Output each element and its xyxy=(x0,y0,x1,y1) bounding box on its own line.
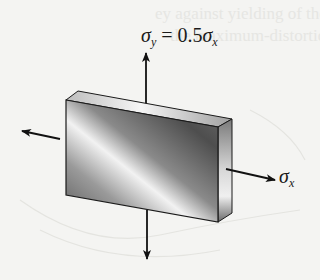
sigma-symbol: σ xyxy=(141,24,151,46)
arrow-right xyxy=(226,169,275,180)
subscript-x: x xyxy=(212,35,217,49)
equals-coefficient: = 0.5 xyxy=(156,24,202,46)
label-sigma-y-equation: σy = 0.5σx xyxy=(141,24,218,50)
arrow-left xyxy=(22,131,60,139)
label-sigma-x: σx xyxy=(279,165,294,191)
sigma-symbol-rhs: σ xyxy=(202,24,212,46)
subscript-x: x xyxy=(289,176,294,190)
sigma-symbol: σ xyxy=(279,165,289,187)
